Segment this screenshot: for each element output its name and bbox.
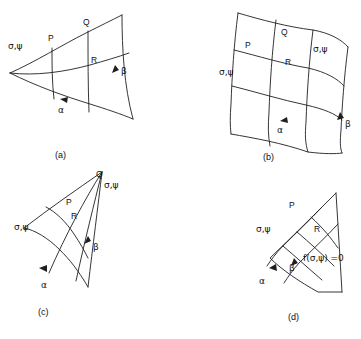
panel-a-sigma-psi-label: σ,ψ xyxy=(8,41,23,51)
caption-panel-a: (a) xyxy=(55,150,66,160)
panel-d-beta-label: β xyxy=(289,263,295,273)
panel-a-beta-label: β xyxy=(121,66,127,76)
panel-a-alpha-arrowhead xyxy=(60,97,68,103)
panel-b-beta-curve-2 xyxy=(268,20,276,146)
panel-a-alpha-curve-top xyxy=(10,15,122,73)
panel-c-beta-label: β xyxy=(93,242,99,252)
caption-panel-d: (d) xyxy=(288,312,299,322)
panel-d-point-p-label: P xyxy=(289,200,295,210)
panel-b-point-q-label: Q xyxy=(281,27,288,37)
panel-c-point-q-label: Q xyxy=(96,169,103,179)
caption-panel-c: (c) xyxy=(38,307,49,317)
panel-c-sigma-psi-right-label: σ,ψ xyxy=(104,180,119,190)
panel-a-point-p-label: P xyxy=(48,33,54,43)
panel-c-point-p-label: P xyxy=(66,197,72,207)
panel-b-beta-curve-4 xyxy=(340,47,348,153)
panel-c-fan-line-2 xyxy=(49,172,102,273)
panel-a: σ,ψ P Q R β α xyxy=(8,15,133,119)
panel-d-outer-left-boundary xyxy=(270,193,342,292)
panel-b-point-r-label: R xyxy=(285,57,291,67)
panel-b-beta-curve-3 xyxy=(305,30,313,152)
panel-a-point-q-label: Q xyxy=(83,17,90,27)
panel-b: Q P σ,ψ R σ,ψ β α xyxy=(219,13,351,154)
panel-d-alpha-arrowhead xyxy=(269,264,277,271)
panel-b-sigma-psi-right-label: σ,ψ xyxy=(313,44,328,54)
panel-d-yield-locus-line xyxy=(336,193,342,292)
panel-b-alpha-curve-1 xyxy=(238,13,348,47)
panel-c-fan-line-3 xyxy=(76,172,102,281)
panel-b-alpha-curve-4 xyxy=(231,134,342,154)
panel-d-sigma-psi-label: σ,ψ xyxy=(256,224,271,234)
panel-b-alpha-label: α xyxy=(277,125,283,135)
panel-d-yield-locus-label: f(σ,ψ) =0 xyxy=(303,253,344,263)
panel-b-sigma-psi-left-label: σ,ψ xyxy=(219,67,234,77)
panel-d-alpha-label: α xyxy=(259,276,265,286)
panel-a-alpha-curve-bot xyxy=(10,73,133,119)
panel-a-point-r-label: R xyxy=(91,55,97,65)
panel-b-point-p-label: P xyxy=(245,40,251,50)
panel-b-beta-arrowhead xyxy=(337,112,344,120)
panel-c-point-r-label: R xyxy=(71,211,77,221)
panel-b-beta-label: β xyxy=(345,119,351,129)
panel-c-sigma-psi-left-label: σ,ψ xyxy=(14,222,29,232)
panel-c-fan-line-4 xyxy=(88,172,102,287)
panel-d: P σ,ψ R f(σ,ψ) =0 β α xyxy=(256,193,344,292)
panel-a-beta-curve-2 xyxy=(88,31,89,112)
panel-b-alpha-arrowhead xyxy=(280,117,288,123)
panel-c-alpha-arrowhead xyxy=(39,265,47,272)
panel-c-alpha-label: α xyxy=(41,280,47,290)
panel-b-alpha-curve-2 xyxy=(234,50,344,86)
panel-c: Q σ,ψ P R σ,ψ β α xyxy=(14,169,119,290)
figure-root: σ,ψ P Q R β α Q P σ,ψ R σ xyxy=(0,0,361,339)
panel-b-alpha-curve-3 xyxy=(232,86,342,120)
panel-d-point-r-label: R xyxy=(314,224,320,234)
panel-a-beta-arrowhead xyxy=(112,65,119,73)
panel-c-alpha-curve-2 xyxy=(46,207,88,258)
panel-a-alpha-label: α xyxy=(58,105,64,115)
panel-a-alpha-curve-mid xyxy=(10,53,129,74)
characteristic-nets-figure: σ,ψ P Q R β α Q P σ,ψ R σ xyxy=(0,0,361,339)
caption-panel-b: (b) xyxy=(263,152,274,162)
